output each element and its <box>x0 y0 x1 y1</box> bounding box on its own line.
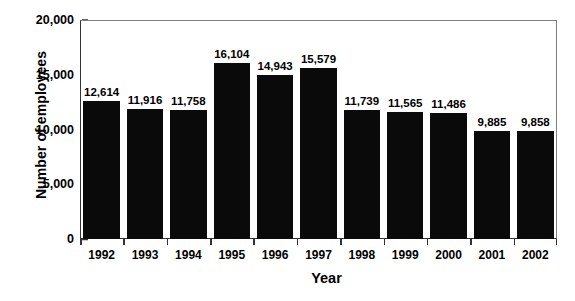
x-tick-mark <box>123 239 125 245</box>
bar-group: 11,486 <box>427 20 470 239</box>
bar <box>387 112 423 239</box>
y-tick-label: 15,000 <box>10 68 74 82</box>
bars-layer: 12,61411,91611,75816,10414,94315,57911,7… <box>80 20 557 239</box>
x-tick-label: 1992 <box>88 248 115 262</box>
bar <box>344 110 380 239</box>
bar <box>300 68 336 239</box>
x-axis-tick-labels: 1992199319941995199619971998199920002001… <box>80 248 557 266</box>
bar-value-label: 11,758 <box>171 95 206 107</box>
bar <box>474 131 510 239</box>
bar-value-label: 15,579 <box>301 53 336 65</box>
x-tick-mark <box>167 239 169 245</box>
bar-value-label: 11,486 <box>431 98 466 110</box>
x-tick-mark <box>470 239 472 245</box>
bar-group: 9,885 <box>470 20 513 239</box>
x-tick-mark <box>384 239 386 245</box>
x-tick-label: 1998 <box>349 248 376 262</box>
x-tick-mark <box>556 239 558 245</box>
x-tick-mark <box>253 239 255 245</box>
bar-group: 16,104 <box>210 20 253 239</box>
bar-group: 9,858 <box>514 20 557 239</box>
x-tick-mark <box>427 239 429 245</box>
bar-group: 11,758 <box>167 20 210 239</box>
bar <box>214 63 250 239</box>
x-tick-label: 2001 <box>479 248 506 262</box>
bar <box>83 101 119 239</box>
bar-value-label: 11,739 <box>345 95 380 107</box>
bar <box>517 131 553 239</box>
x-tick-mark <box>210 239 212 245</box>
bar-value-label: 11,916 <box>128 94 163 106</box>
x-axis-title: Year <box>0 270 575 286</box>
bar-group: 15,579 <box>297 20 340 239</box>
x-tick-mark <box>297 239 299 245</box>
x-axis-tick-marks <box>80 239 557 246</box>
bar-value-label: 9,885 <box>478 116 507 128</box>
x-tick-label: 1995 <box>218 248 245 262</box>
bar-group: 11,916 <box>123 20 166 239</box>
x-tick-label: 1993 <box>132 248 159 262</box>
bar <box>257 75 293 239</box>
y-tick-label: 20,000 <box>10 13 74 27</box>
bar-chart: Number of employees 05,00010,00015,00020… <box>0 0 575 301</box>
bar <box>430 113 466 239</box>
bar-group: 12,614 <box>80 20 123 239</box>
x-tick-label: 2000 <box>435 248 462 262</box>
x-tick-mark <box>514 239 516 245</box>
bar-value-label: 14,943 <box>258 60 293 72</box>
bar-value-label: 11,565 <box>388 97 423 109</box>
bar-group: 14,943 <box>253 20 296 239</box>
y-axis-tick-labels: 05,00010,00015,00020,000 <box>8 0 74 301</box>
x-tick-mark <box>80 239 82 245</box>
x-tick-label: 1999 <box>392 248 419 262</box>
y-tick-label: 5,000 <box>10 177 74 191</box>
x-tick-label: 1994 <box>175 248 202 262</box>
bar-value-label: 16,104 <box>214 48 249 60</box>
y-tick-label: 0 <box>10 232 74 246</box>
x-tick-label: 1996 <box>262 248 289 262</box>
bar-group: 11,565 <box>384 20 427 239</box>
bar-value-label: 12,614 <box>84 86 119 98</box>
bar <box>170 110 206 239</box>
x-tick-mark <box>340 239 342 245</box>
bar-group: 11,739 <box>340 20 383 239</box>
x-tick-label: 2002 <box>522 248 549 262</box>
bar <box>127 109 163 239</box>
y-tick-label: 10,000 <box>10 123 74 137</box>
bar-value-label: 9,858 <box>521 116 550 128</box>
x-tick-label: 1997 <box>305 248 332 262</box>
